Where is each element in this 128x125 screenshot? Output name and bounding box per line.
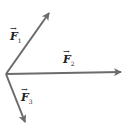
vector-f2-subscript: 2 bbox=[71, 60, 75, 67]
vector-f3-subscript: 3 bbox=[29, 98, 33, 105]
vector-arrow-icon: → bbox=[10, 25, 17, 33]
vector-f2-label: →F2 bbox=[63, 54, 75, 67]
vector-f3-label: →F3 bbox=[21, 92, 33, 105]
vector-arrow-icon: → bbox=[63, 48, 70, 56]
vector-f2-arrow bbox=[6, 72, 121, 74]
vector-f1-label: →F1 bbox=[10, 31, 22, 44]
vector-f1-subscript: 1 bbox=[18, 37, 22, 44]
vector-arrow-icon: → bbox=[21, 86, 28, 94]
